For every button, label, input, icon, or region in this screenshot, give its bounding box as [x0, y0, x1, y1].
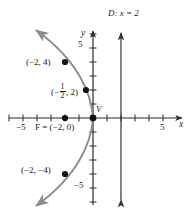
y-axis-label: y — [81, 29, 85, 39]
y-tick-label-5: 5 — [78, 40, 83, 49]
parabola-figure: D: x = 2 y x 5 −5 −5 5 (−2, 4) (−12, 2) … — [0, 0, 193, 217]
half-fraction: 12 — [60, 83, 66, 100]
point-focus — [62, 115, 68, 121]
point-label-upper: (−2, 4) — [26, 58, 51, 67]
point-half — [83, 87, 89, 93]
half-denominator: 2 — [60, 92, 66, 100]
point-label-lower: (−2, −4) — [21, 166, 51, 175]
point-vertex — [90, 115, 97, 122]
x-tick-label-neg5: −5 — [16, 123, 26, 132]
half-label-prefix: (− — [51, 87, 59, 97]
focus-label: F = (−2, 0) — [35, 123, 74, 132]
y-tick-label-neg5: −5 — [74, 181, 84, 190]
point-label-half: (−12, 2) — [51, 83, 78, 100]
x-tick-label-5: 5 — [160, 123, 165, 132]
x-axis-label: x — [179, 120, 183, 130]
point-upper — [62, 59, 68, 65]
vertex-label: V — [96, 105, 102, 114]
half-label-suffix: , 2) — [66, 87, 78, 97]
point-lower — [62, 171, 68, 177]
directrix-label: D: x = 2 — [108, 9, 139, 18]
